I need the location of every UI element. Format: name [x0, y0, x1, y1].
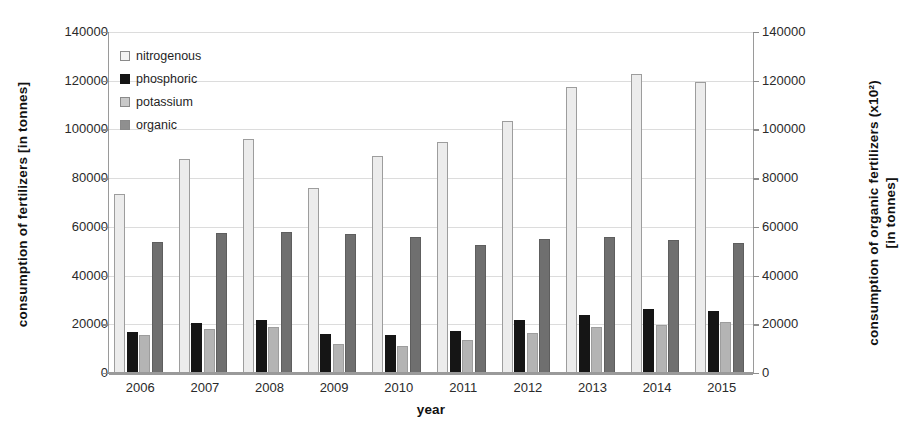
y-tick-label-left: 100000	[65, 122, 108, 135]
bar-potassium-2008	[268, 327, 279, 372]
y-axis-title-left: consumption of fertilizers [in tonnes]	[15, 29, 32, 379]
bar-group	[432, 32, 497, 372]
legend-item-potassium[interactable]: potassium	[120, 90, 270, 113]
bar-potassium-2007	[204, 329, 215, 372]
gridline	[109, 373, 753, 375]
bar-group	[367, 32, 432, 372]
y-tick-label-right: 140000	[762, 25, 805, 38]
bar-phosphoric-2012	[514, 320, 525, 372]
bar-potassium-2013	[591, 327, 602, 372]
bar-group	[561, 32, 626, 372]
legend-label: phosphoric	[136, 72, 197, 86]
bar-nitrogenous-2009	[308, 188, 319, 372]
bar-nitrogenous-2014	[631, 74, 642, 372]
bar-potassium-2014	[656, 325, 667, 372]
y-axis-title-right: consumption of organic fertilizers (x10²…	[866, 38, 900, 388]
bar-phosphoric-2013	[579, 315, 590, 372]
axis-tick	[103, 373, 109, 374]
bar-organic-2014	[668, 240, 679, 372]
bar-phosphoric-2009	[320, 334, 331, 372]
y-tick-label-right: 40000	[762, 269, 798, 282]
fertilizer-consumption-chart: consumption of fertilizers [in tonnes] c…	[0, 0, 908, 432]
x-tick-label-2010: 2010	[366, 380, 431, 395]
bar-organic-2010	[410, 237, 421, 372]
bar-phosphoric-2015	[708, 311, 719, 372]
x-tick-label-2006: 2006	[108, 380, 173, 395]
x-tick-label-2011: 2011	[431, 380, 496, 395]
y-tick-label-left: 120000	[65, 74, 108, 87]
axis-tick	[753, 373, 759, 374]
bar-group	[690, 32, 755, 372]
bar-potassium-2015	[720, 322, 731, 372]
bar-nitrogenous-2011	[437, 142, 448, 372]
bar-nitrogenous-2007	[179, 159, 190, 372]
legend-label: nitrogenous	[136, 49, 201, 63]
legend-swatch-icon	[120, 74, 130, 84]
bar-potassium-2009	[333, 344, 344, 372]
bar-group	[303, 32, 368, 372]
legend-swatch-icon	[120, 97, 130, 107]
bar-group	[626, 32, 691, 372]
bar-organic-2012	[539, 239, 550, 372]
bar-nitrogenous-2006	[114, 194, 125, 372]
x-tick-label-2007: 2007	[173, 380, 238, 395]
bar-potassium-2012	[527, 333, 538, 372]
chart-legend: nitrogenousphosphoricpotassiumorganic	[120, 44, 270, 136]
y-tick-label-right: 100000	[762, 122, 805, 135]
legend-swatch-icon	[120, 51, 130, 61]
legend-label: organic	[136, 118, 177, 132]
x-tick-label-2012: 2012	[496, 380, 561, 395]
bar-organic-2013	[604, 237, 615, 372]
bar-potassium-2011	[462, 340, 473, 372]
bar-nitrogenous-2010	[372, 156, 383, 372]
x-tick-label-2015: 2015	[689, 380, 754, 395]
y-tick-label-right: 20000	[762, 317, 798, 330]
bar-organic-2007	[216, 233, 227, 372]
x-tick-label-2008: 2008	[237, 380, 302, 395]
bar-phosphoric-2010	[385, 335, 396, 372]
legend-item-phosphoric[interactable]: phosphoric	[120, 67, 270, 90]
y-tick-label-left: 140000	[65, 25, 108, 38]
bar-potassium-2010	[397, 346, 408, 372]
bar-nitrogenous-2015	[695, 82, 706, 372]
legend-item-nitrogenous[interactable]: nitrogenous	[120, 44, 270, 67]
y-tick-label-right: 120000	[762, 74, 805, 87]
bar-potassium-2006	[139, 335, 150, 372]
y-tick-label-right: 80000	[762, 171, 798, 184]
bar-organic-2008	[281, 232, 292, 372]
bar-nitrogenous-2012	[502, 121, 513, 372]
y-axis-right-tick-labels: 020000400006000080000100000120000140000	[762, 32, 882, 373]
bar-phosphoric-2011	[450, 331, 461, 372]
legend-swatch-icon	[120, 120, 130, 130]
x-tick-label-2014: 2014	[625, 380, 690, 395]
x-axis-title: year	[108, 402, 754, 419]
y-tick-label-right: 0	[762, 366, 769, 379]
bar-phosphoric-2014	[643, 309, 654, 372]
bar-nitrogenous-2013	[566, 87, 577, 372]
bar-organic-2015	[733, 243, 744, 372]
bar-phosphoric-2006	[127, 332, 138, 372]
legend-item-organic[interactable]: organic	[120, 113, 270, 136]
x-tick-label-2013: 2013	[560, 380, 625, 395]
legend-label: potassium	[136, 95, 193, 109]
y-tick-label-right: 60000	[762, 220, 798, 233]
bar-group	[497, 32, 562, 372]
bar-organic-2011	[475, 245, 486, 372]
bar-phosphoric-2008	[256, 320, 267, 372]
bar-organic-2009	[345, 234, 356, 372]
bar-organic-2006	[152, 242, 163, 372]
x-tick-label-2009: 2009	[302, 380, 367, 395]
bar-phosphoric-2007	[191, 323, 202, 372]
bar-nitrogenous-2008	[243, 139, 254, 372]
